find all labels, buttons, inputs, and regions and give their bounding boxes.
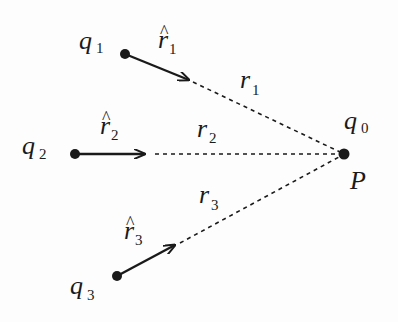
- svg-text:r: r: [240, 65, 251, 94]
- svg-text:r: r: [124, 216, 135, 245]
- svg-text:2: 2: [111, 127, 119, 143]
- label-r-hat-3: ^ r 3: [124, 213, 143, 248]
- svg-text:r: r: [100, 111, 111, 140]
- svg-text:1: 1: [96, 40, 104, 56]
- charge-dot-q2: [70, 149, 80, 159]
- label-q2: q 2: [22, 131, 47, 162]
- svg-text:P: P: [349, 166, 366, 195]
- svg-text:1: 1: [169, 41, 177, 57]
- label-q1: q 1: [79, 26, 104, 56]
- unit-vector-arrow-r3: [117, 245, 175, 276]
- svg-text:q: q: [70, 271, 83, 300]
- svg-text:0: 0: [361, 120, 369, 136]
- svg-text:1: 1: [252, 82, 260, 98]
- svg-text:2: 2: [209, 130, 217, 146]
- label-r-hat-1: ^ r 1: [158, 22, 177, 57]
- point-p-dot: [339, 149, 350, 160]
- label-point-p: P: [349, 166, 366, 195]
- charge-dot-q3: [112, 271, 122, 281]
- electrostatic-superposition-diagram: q 1 q 2 q 3 q 0 P ^ r 1 ^ r 2 ^: [0, 0, 398, 322]
- label-r3: r 3: [199, 180, 219, 213]
- svg-text:3: 3: [135, 232, 143, 248]
- charge-dot-q1: [120, 49, 130, 59]
- label-r2: r 2: [197, 114, 217, 146]
- svg-text:2: 2: [39, 146, 47, 162]
- svg-text:r: r: [158, 25, 169, 54]
- svg-text:q: q: [22, 131, 35, 160]
- svg-text:3: 3: [87, 287, 95, 303]
- label-q0: q 0: [344, 106, 369, 136]
- unit-vector-arrow-r1: [125, 54, 189, 80]
- svg-text:3: 3: [211, 197, 219, 213]
- diagram-canvas: q 1 q 2 q 3 q 0 P ^ r 1 ^ r 2 ^: [0, 0, 398, 322]
- label-r-hat-2: ^ r 2: [100, 108, 119, 143]
- svg-text:q: q: [344, 106, 357, 135]
- svg-text:q: q: [79, 26, 92, 55]
- label-r1: r 1: [240, 65, 260, 98]
- label-q3: q 3: [70, 271, 95, 303]
- svg-text:r: r: [199, 180, 210, 209]
- svg-text:r: r: [197, 114, 208, 143]
